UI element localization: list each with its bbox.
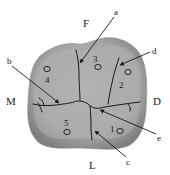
- cusp-label-4: 4: [45, 75, 50, 85]
- cusp-label-3: 3: [93, 54, 98, 64]
- direction-label-distal: D: [153, 95, 161, 107]
- pointer-label-a: a: [114, 7, 118, 17]
- direction-label-facial: F: [83, 17, 89, 29]
- tooth-diagram: 4 3 2 5 1 a b c d e F M D L: [0, 0, 170, 175]
- direction-label-mesial: M: [6, 95, 16, 107]
- pointer-label-b: b: [7, 56, 12, 66]
- cusp-label-5: 5: [64, 118, 69, 128]
- cusp-label-1: 1: [110, 124, 115, 134]
- direction-label-lingual: L: [89, 159, 96, 171]
- pointer-label-d: d: [152, 46, 157, 56]
- pointer-label-e: e: [157, 133, 161, 143]
- cusp-label-2: 2: [119, 80, 124, 90]
- pointer-label-c: c: [126, 157, 130, 167]
- occlusal-table: [33, 46, 141, 139]
